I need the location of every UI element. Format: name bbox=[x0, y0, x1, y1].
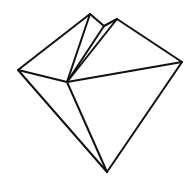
figure-canvas bbox=[0, 0, 192, 185]
edge-peakB-to-hub bbox=[67, 19, 117, 82]
edge-hub-to-right bbox=[67, 62, 182, 82]
edge-hub-to-bottom bbox=[67, 82, 107, 172]
edge-peakB-to-right bbox=[117, 19, 182, 62]
wireframe-drawing bbox=[0, 0, 192, 185]
edge-group bbox=[18, 14, 182, 172]
edge-left-to-peakA bbox=[18, 14, 90, 70]
edge-left-to-hub bbox=[18, 70, 67, 82]
edge-right-to-bottom bbox=[107, 62, 182, 172]
edge-peakA-to-notch bbox=[90, 14, 104, 26]
edge-left-to-bottom bbox=[18, 70, 107, 172]
